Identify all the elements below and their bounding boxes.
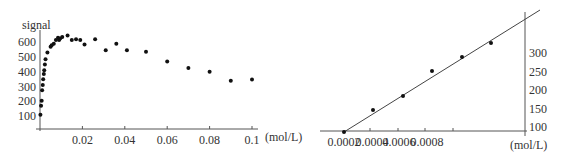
data-point — [401, 94, 405, 98]
right-chart: 0.00020.00040.00060.0008 100150200250300… — [320, 10, 547, 152]
x-tick-label: 0.04 — [114, 133, 135, 147]
left-x-unit-label: (mol/L) — [265, 130, 302, 144]
data-point — [45, 51, 49, 55]
data-point — [460, 55, 464, 59]
data-point — [186, 66, 190, 70]
data-point — [144, 50, 148, 54]
data-point — [40, 99, 44, 103]
y-tick-label: 400 — [18, 65, 36, 79]
data-point — [70, 38, 74, 42]
x-tick-label: 0.0008 — [411, 135, 444, 149]
left-y-axis-label: signal — [22, 18, 51, 32]
data-point — [430, 69, 434, 73]
data-point — [165, 59, 169, 63]
data-point — [40, 88, 44, 92]
data-point — [52, 42, 56, 46]
data-point — [41, 77, 45, 81]
data-point — [41, 83, 45, 87]
data-point — [42, 72, 46, 76]
data-point — [42, 68, 46, 72]
data-point — [489, 41, 493, 45]
x-tick-label: 0.06 — [157, 133, 178, 147]
data-point — [60, 35, 64, 39]
data-point — [83, 42, 87, 46]
chart-canvas: 0.020.040.060.080.1 100200300400500600 s… — [0, 0, 568, 156]
y-tick-label: 300 — [529, 46, 547, 60]
y-tick-label: 200 — [529, 83, 547, 97]
data-point — [38, 113, 42, 117]
left-data-points — [38, 34, 254, 117]
y-tick-label: 250 — [529, 65, 547, 79]
x-tick-label: 0.02 — [72, 133, 93, 147]
y-tick-label: 200 — [18, 94, 36, 108]
data-point — [44, 57, 48, 61]
data-point — [208, 70, 212, 74]
left-chart: 0.020.040.060.080.1 100200300400500600 s… — [18, 18, 302, 147]
data-point — [43, 62, 47, 66]
data-point — [125, 48, 129, 52]
y-tick-label: 300 — [18, 80, 36, 94]
y-tick-label: 100 — [529, 120, 547, 134]
right-y-ticks: 100150200250300 — [529, 46, 547, 134]
data-point — [104, 48, 108, 52]
y-tick-label: 600 — [18, 35, 36, 49]
data-point — [229, 79, 233, 83]
y-tick-label: 150 — [529, 102, 547, 116]
data-point — [74, 37, 78, 41]
right-data-points — [342, 41, 493, 134]
data-point — [114, 42, 118, 46]
data-point — [78, 38, 82, 42]
x-tick-label: 0.1 — [245, 133, 260, 147]
data-point — [39, 104, 43, 108]
trend-line — [344, 10, 540, 132]
y-tick-label: 500 — [18, 50, 36, 64]
data-point — [93, 37, 97, 41]
y-tick-label: 100 — [18, 109, 36, 123]
x-tick-label: 0.08 — [199, 133, 220, 147]
data-point — [342, 130, 346, 134]
right-x-unit-label: (mol/L) — [510, 138, 547, 152]
data-point — [371, 108, 375, 112]
data-point — [66, 34, 70, 38]
data-point — [250, 77, 254, 81]
left-y-ticks: 100200300400500600 — [18, 35, 36, 123]
